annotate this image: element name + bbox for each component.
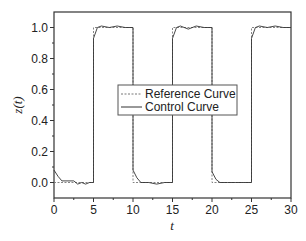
x-tick-label: 20 — [205, 203, 219, 217]
y-tick-label: 1.0 — [31, 21, 48, 35]
x-tick-label: 5 — [90, 203, 97, 217]
y-axis-label: z(t) — [10, 96, 25, 114]
x-axis: 051015202530 — [51, 198, 298, 217]
x-axis-label: t — [170, 218, 174, 233]
y-tick-label: 0.6 — [31, 83, 48, 97]
y-tick-label: 0.8 — [31, 52, 48, 66]
x-tick-label: 10 — [126, 203, 140, 217]
x-tick-label: 25 — [245, 203, 259, 217]
y-tick-label: 0.4 — [31, 114, 48, 128]
x-tick-label: 30 — [284, 203, 298, 217]
legend-label: Reference Curve — [145, 87, 236, 101]
y-axis: 0.00.20.40.60.81.0 — [31, 21, 54, 190]
x-tick-label: 0 — [51, 203, 58, 217]
y-tick-label: 0.2 — [31, 145, 48, 159]
y-tick-label: 0.0 — [31, 176, 48, 190]
legend-label: Control Curve — [145, 100, 219, 114]
legend: Reference CurveControl Curve — [118, 85, 237, 115]
x-tick-label: 15 — [166, 203, 180, 217]
chart: 0.00.20.40.60.81.0 051015202530 z(t) t R… — [0, 0, 306, 241]
